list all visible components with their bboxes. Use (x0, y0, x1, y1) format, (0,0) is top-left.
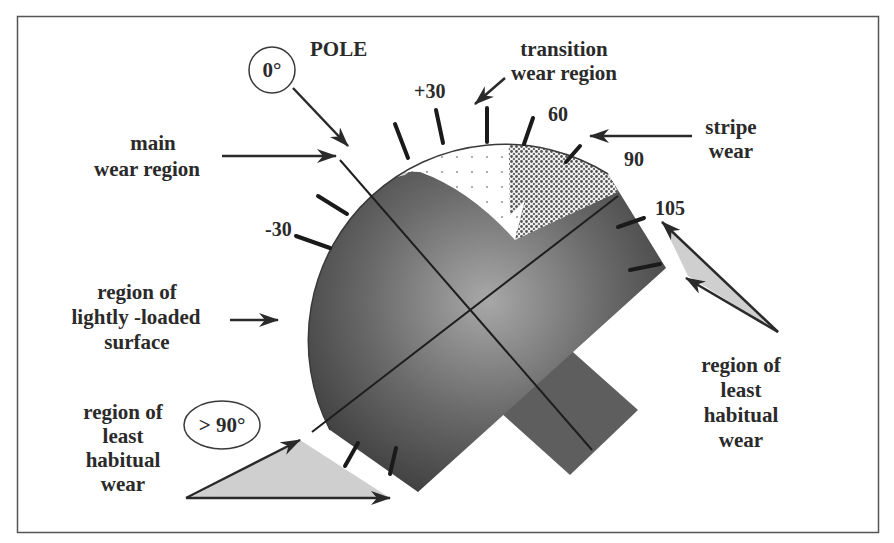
main-wear-label: main wear region (94, 131, 200, 181)
least-wedge-arrow-right-lower (686, 278, 778, 332)
tick-label-minus30: -30 (265, 218, 292, 240)
svg-text:habitual: habitual (86, 448, 161, 472)
tick-label-105: 105 (655, 197, 685, 219)
svg-text:wear region: wear region (94, 157, 200, 181)
svg-text:habitual: habitual (704, 403, 779, 427)
least-habitual-right-label: region of least habitual wear (701, 353, 782, 452)
stripe-wear-label: stripe wear (705, 115, 756, 163)
transition-wear-arrow (475, 78, 505, 104)
svg-text:main: main (130, 131, 176, 155)
svg-text:region of: region of (701, 353, 782, 377)
svg-text:wear: wear (719, 428, 763, 452)
least-angle-badge: > 90° (184, 401, 260, 449)
svg-text:lightly -loaded: lightly -loaded (72, 305, 201, 329)
least-angle-text: > 90° (199, 413, 246, 437)
pole-angle-badge: 0° (249, 47, 295, 93)
svg-text:wear: wear (101, 472, 145, 496)
tick-label-60: 60 (548, 103, 568, 125)
svg-text:stripe: stripe (705, 115, 756, 139)
tick-label-90: 90 (624, 148, 644, 170)
wear-region-diagram: 0° POLE > 90° main wear region transitio… (0, 0, 894, 543)
svg-text:region of: region of (83, 400, 164, 424)
svg-text:transition: transition (520, 37, 608, 61)
pole-pointer-arrow (293, 88, 348, 146)
svg-text:least: least (721, 378, 762, 402)
svg-text:least: least (103, 424, 144, 448)
lightly-loaded-label: region of lightly -loaded surface (72, 280, 201, 354)
least-wedge-arrow-right-upper (662, 222, 778, 332)
tick-label-plus30: +30 (414, 80, 445, 102)
pole-angle-text: 0° (263, 58, 282, 82)
svg-text:region of: region of (97, 280, 178, 304)
svg-text:wear: wear (709, 139, 753, 163)
least-habitual-left-label: region of least habitual wear (83, 400, 164, 496)
svg-text:surface: surface (104, 330, 169, 354)
svg-text:wear region: wear region (511, 61, 617, 85)
transition-wear-label: transition wear region (511, 37, 617, 85)
pole-label: POLE (310, 37, 367, 61)
